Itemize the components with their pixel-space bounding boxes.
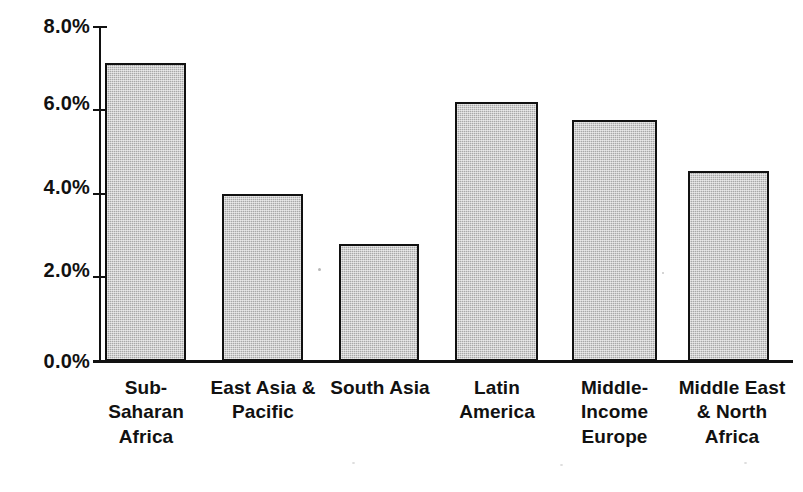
- scan-speck: [318, 268, 321, 271]
- x-category-label-east-asia-pacific: East Asia & Pacific: [203, 376, 323, 425]
- x-category-line: South Asia: [324, 376, 436, 400]
- x-category-line: America: [444, 400, 550, 424]
- x-category-line: Europe: [561, 425, 668, 449]
- x-category-line: East Asia &: [203, 376, 323, 400]
- x-category-line: Sub-: [96, 376, 196, 400]
- bar-south-asia: [339, 244, 419, 361]
- bar-chart: 8.0% 6.0% 4.0% 2.0% 0.0% Sub- Saharan Af…: [0, 0, 803, 492]
- scan-speck: [560, 464, 563, 466]
- x-category-line: Middle East: [671, 376, 793, 400]
- bar-middle-east-north-africa: [688, 171, 769, 361]
- x-category-line: Middle-: [561, 376, 668, 400]
- x-category-line: Latin: [444, 376, 550, 400]
- x-category-line: Income: [561, 400, 668, 424]
- bar-east-asia-pacific: [222, 194, 303, 361]
- scan-speck: [352, 462, 355, 464]
- x-category-label-middle-east-north-africa: Middle East & North Africa: [671, 376, 793, 449]
- x-category-label-latin-america: Latin America: [444, 376, 550, 425]
- x-category-line: & North: [671, 400, 793, 424]
- bar-latin-america: [455, 102, 538, 361]
- x-category-line: Africa: [96, 425, 196, 449]
- x-category-line: Saharan: [96, 400, 196, 424]
- scan-speck: [662, 272, 664, 274]
- x-category-label-sub-saharan-africa: Sub- Saharan Africa: [96, 376, 196, 449]
- x-category-line: Africa: [671, 425, 793, 449]
- x-category-label-south-asia: South Asia: [324, 376, 436, 400]
- bar-middle-income-europe: [572, 120, 657, 361]
- scan-speck: [744, 462, 747, 464]
- bar-sub-saharan-africa: [105, 63, 186, 361]
- x-category-label-middle-income-europe: Middle- Income Europe: [561, 376, 668, 449]
- x-category-line: Pacific: [203, 400, 323, 424]
